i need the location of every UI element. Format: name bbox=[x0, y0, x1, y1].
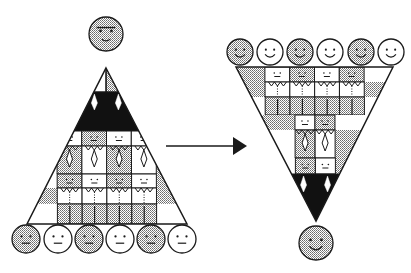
face-circle bbox=[12, 225, 40, 253]
eye bbox=[274, 72, 276, 74]
inverted-pyramid bbox=[227, 39, 404, 260]
eye bbox=[307, 120, 309, 122]
grid-cell bbox=[315, 158, 335, 174]
edge-cell bbox=[157, 204, 189, 224]
eye bbox=[265, 49, 267, 51]
grid-cell bbox=[57, 188, 82, 204]
eye bbox=[97, 179, 99, 181]
edge-cell bbox=[335, 158, 349, 174]
eye bbox=[386, 49, 388, 51]
eye bbox=[83, 235, 85, 237]
edge-cell bbox=[250, 97, 266, 115]
eye bbox=[322, 164, 324, 166]
grid-cell bbox=[295, 158, 315, 174]
face-circle bbox=[168, 225, 196, 253]
eye bbox=[66, 179, 68, 181]
edge-cell bbox=[364, 67, 395, 82]
edge-cell bbox=[156, 174, 170, 188]
grid-cell bbox=[290, 174, 342, 221]
face-circle bbox=[299, 226, 333, 260]
person-face-icon bbox=[317, 39, 343, 65]
eye bbox=[115, 179, 117, 181]
eye bbox=[327, 120, 329, 122]
face-circle bbox=[287, 39, 313, 65]
person-face-icon bbox=[89, 17, 123, 51]
person-face-icon bbox=[227, 39, 253, 65]
face-circle bbox=[227, 39, 253, 65]
face-circle bbox=[44, 225, 72, 253]
pyramid-cells bbox=[234, 67, 395, 221]
grid-cell bbox=[72, 92, 141, 131]
eye bbox=[308, 164, 310, 166]
grid-cell bbox=[107, 188, 132, 204]
edge-cell bbox=[364, 97, 380, 115]
eye bbox=[115, 136, 117, 138]
eye bbox=[323, 72, 325, 74]
edge-cell bbox=[43, 174, 57, 188]
eye bbox=[121, 136, 123, 138]
person-face-icon bbox=[348, 39, 374, 65]
person-face-icon bbox=[44, 225, 72, 253]
person-face-icon bbox=[75, 225, 103, 253]
grid-cell bbox=[82, 131, 107, 146]
eye bbox=[20, 235, 22, 237]
face-circle bbox=[106, 225, 134, 253]
grid-cell bbox=[295, 115, 315, 130]
grid-cell bbox=[339, 67, 364, 82]
person-face-icon bbox=[12, 225, 40, 253]
person-face-icon bbox=[287, 39, 313, 65]
edge-cell bbox=[281, 158, 295, 174]
eye bbox=[298, 72, 300, 74]
face-circle bbox=[348, 39, 374, 65]
eye bbox=[114, 235, 116, 237]
eye bbox=[99, 30, 102, 33]
eye bbox=[325, 49, 327, 51]
eye bbox=[320, 239, 323, 242]
eye bbox=[96, 136, 98, 138]
eye bbox=[309, 239, 312, 242]
grid-cell bbox=[82, 174, 107, 188]
eye bbox=[185, 235, 187, 237]
grid-cell bbox=[131, 131, 156, 146]
grid-cell bbox=[132, 188, 157, 204]
grid-cell bbox=[290, 67, 315, 82]
eye bbox=[394, 49, 396, 51]
eye bbox=[243, 49, 245, 51]
person-face-icon bbox=[378, 39, 404, 65]
eye bbox=[333, 49, 335, 51]
eye bbox=[92, 235, 94, 237]
person-face-icon bbox=[299, 226, 333, 260]
eye bbox=[72, 179, 74, 181]
grid-cell bbox=[82, 188, 107, 204]
eye bbox=[280, 72, 282, 74]
eye bbox=[118, 78, 120, 80]
eye bbox=[356, 49, 358, 51]
eye bbox=[328, 164, 330, 166]
eye bbox=[364, 49, 366, 51]
person-face-icon bbox=[257, 39, 283, 65]
face-circle bbox=[378, 39, 404, 65]
transform-arrow bbox=[166, 137, 247, 155]
eye bbox=[295, 49, 297, 51]
eye bbox=[146, 179, 148, 181]
eye bbox=[273, 49, 275, 51]
grid-cell bbox=[107, 131, 132, 146]
eye bbox=[92, 78, 94, 80]
eye bbox=[154, 235, 156, 237]
eye bbox=[329, 72, 331, 74]
grid-cell bbox=[132, 174, 157, 188]
grid-cell bbox=[57, 174, 82, 188]
eye bbox=[301, 120, 303, 122]
eye bbox=[140, 179, 142, 181]
grid-cell bbox=[265, 67, 290, 82]
grid-cell bbox=[57, 131, 82, 146]
face-circle bbox=[75, 225, 103, 253]
eye bbox=[90, 136, 92, 138]
edge-cell bbox=[25, 204, 57, 224]
eye bbox=[110, 30, 113, 33]
eye bbox=[348, 72, 350, 74]
eye bbox=[302, 164, 304, 166]
eye bbox=[304, 72, 306, 74]
top-people-row bbox=[227, 39, 404, 65]
pyramid-cells bbox=[25, 68, 189, 224]
